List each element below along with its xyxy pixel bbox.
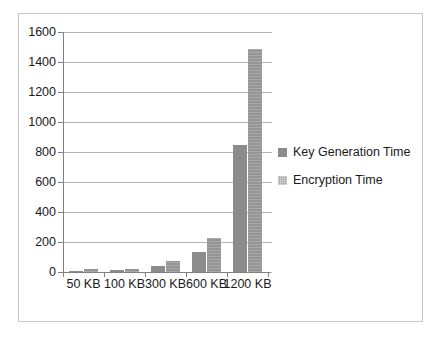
value-axis-tick-label: 1000 [10,116,56,129]
bar-group [145,32,186,272]
bar-encryption-time [248,49,262,273]
value-axis-tick-label: 200 [10,236,56,249]
legend-label: Encryption Time [293,174,383,187]
bar-group [104,32,145,272]
bar-group [186,32,227,272]
value-axis-tick-label: 600 [10,176,56,189]
plot-area [63,32,268,272]
legend-swatch-icon [278,176,287,185]
category-axis-labels: 50 KB100 KB300 KB600 KB1200 KB [63,277,270,323]
legend-item: Encryption Time [278,173,418,187]
value-axis-tick-label: 800 [10,146,56,159]
category-axis-label: 1200 KB [223,277,272,292]
bar-encryption-time [125,269,139,272]
value-axis-tick-label: 1400 [10,56,56,69]
category-axis-line [63,272,270,273]
bar-encryption-time [84,269,98,272]
legend-item: Key Generation Time [278,145,418,159]
bar-key-generation-time [69,271,83,273]
bar-key-generation-time [192,252,206,272]
legend-label: Key Generation Time [293,146,410,159]
value-axis-labels: 02004006008001000120014001600 [4,0,56,338]
value-axis-tick-label: 1200 [10,86,56,99]
bar-key-generation-time [151,266,165,272]
chart-legend: Key Generation TimeEncryption Time [278,145,418,201]
bar-encryption-time [207,238,221,272]
bar-key-generation-time [110,270,124,272]
legend-swatch-icon [278,148,287,157]
value-axis-tick-label: 0 [10,266,56,279]
bar-encryption-time [166,261,180,272]
value-axis-tick-label: 400 [10,206,56,219]
value-axis-tick-label: 1600 [10,26,56,39]
bar-key-generation-time [233,145,247,272]
chart-figure: 02004006008001000120014001600 50 KB100 K… [0,0,441,338]
bar-group [63,32,104,272]
bar-group [227,32,268,272]
